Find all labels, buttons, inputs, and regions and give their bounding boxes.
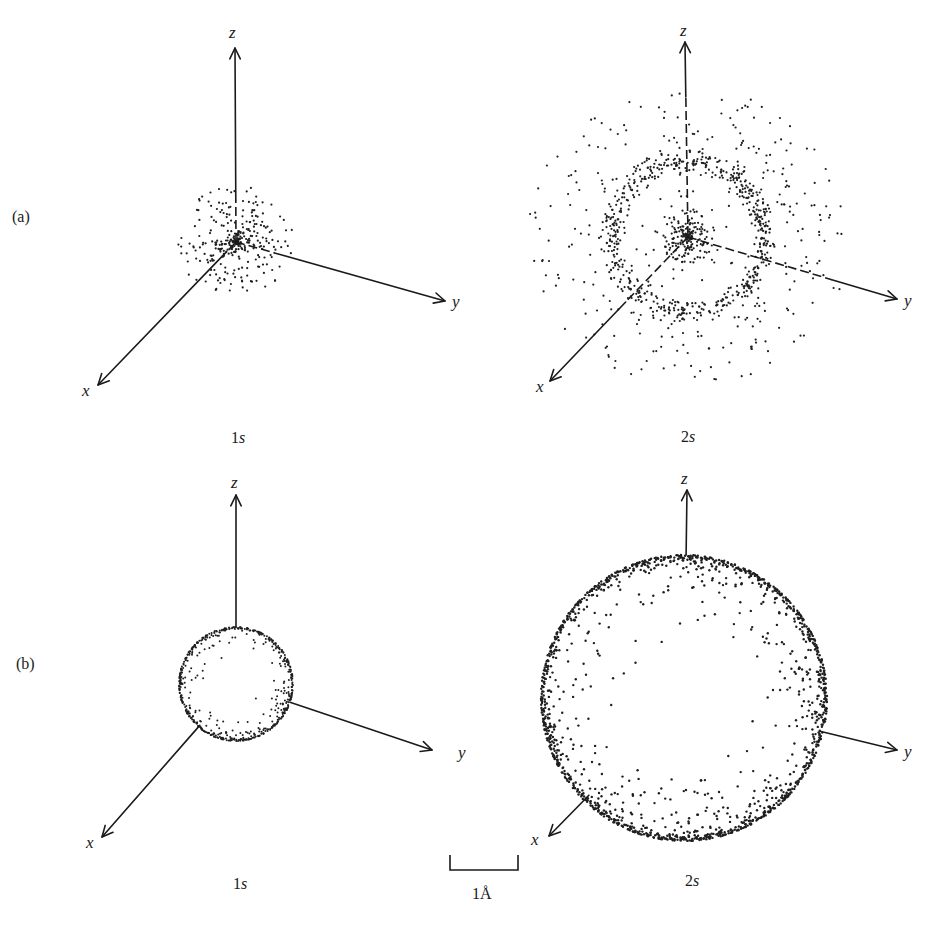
surface-dot — [804, 772, 806, 774]
surface-dot — [802, 679, 804, 681]
surface-dot — [710, 797, 712, 799]
density-dot — [198, 235, 200, 237]
surface-dot — [639, 833, 641, 835]
density-dot — [790, 142, 792, 144]
density-dot — [745, 197, 747, 199]
surface-dot — [713, 561, 715, 563]
surface-dot — [622, 569, 624, 571]
surface-dot — [578, 791, 580, 793]
z-axis-line — [685, 42, 686, 97]
density-dot — [616, 190, 618, 192]
density-dot — [813, 148, 815, 150]
density-dot — [681, 231, 683, 233]
density-dot — [242, 200, 244, 202]
y-axis-line — [290, 702, 432, 750]
density-dot — [614, 262, 616, 264]
density-dot — [623, 221, 625, 223]
density-dot — [219, 282, 221, 284]
surface-dot — [724, 596, 726, 598]
surface-dot — [585, 674, 587, 676]
surface-dot — [192, 715, 194, 717]
density-dot — [257, 254, 259, 256]
density-dot — [823, 240, 825, 242]
density-dot — [804, 192, 806, 194]
density-dot — [712, 172, 714, 174]
surface-dot — [239, 626, 241, 628]
density-dot — [732, 168, 734, 170]
surface-dot — [650, 829, 652, 831]
density-dot — [716, 166, 718, 168]
density-dot — [784, 262, 786, 264]
surface-dot — [223, 628, 225, 630]
density-dot — [653, 249, 655, 251]
surface-dot — [809, 678, 811, 680]
density-dot — [619, 281, 621, 283]
density-dot — [838, 288, 840, 290]
density-dot — [615, 234, 617, 236]
surface-dot — [287, 707, 289, 709]
surface-dot — [703, 837, 705, 839]
surface-dot — [642, 825, 644, 827]
density-dot — [760, 229, 762, 231]
surface-dot — [640, 817, 642, 819]
density-dot — [604, 213, 606, 215]
density-dot — [666, 223, 668, 225]
density-dot — [623, 196, 625, 198]
density-dot — [205, 280, 207, 282]
surface-dot — [246, 629, 248, 631]
surface-dot — [685, 566, 687, 568]
surface-dot — [541, 690, 543, 692]
density-dot — [712, 319, 714, 321]
density-dot — [736, 291, 738, 293]
surface-dot — [734, 564, 736, 566]
density-dot — [677, 227, 679, 229]
density-dot — [735, 126, 737, 128]
density-dot — [753, 282, 755, 284]
surface-dot — [720, 831, 722, 833]
surface-dot — [654, 834, 656, 836]
density-dot — [773, 246, 775, 248]
surface-dot — [755, 574, 757, 576]
density-dot — [253, 230, 255, 232]
surface-dot — [767, 582, 769, 584]
surface-dot — [594, 788, 596, 790]
density-dot — [816, 262, 818, 264]
surface-dot — [712, 577, 714, 579]
density-dot — [652, 315, 654, 317]
density-dot — [613, 242, 615, 244]
density-dot — [255, 223, 257, 225]
surface-dot — [807, 700, 809, 702]
surface-dot — [561, 624, 563, 626]
density-dot — [235, 250, 237, 252]
density-dot — [692, 305, 694, 307]
surface-dot — [241, 628, 243, 630]
surface-dot — [635, 563, 637, 565]
surface-dot — [586, 592, 588, 594]
surface-dot — [726, 812, 728, 814]
surface-dot — [187, 654, 189, 656]
density-dot — [822, 274, 824, 276]
surface-dot — [191, 651, 193, 653]
surface-dot — [250, 738, 252, 740]
surface-dot — [273, 680, 275, 682]
surface-dot — [614, 572, 616, 574]
surface-dot — [283, 687, 285, 689]
density-dot — [759, 279, 761, 281]
surface-dot — [598, 763, 600, 765]
surface-dot — [556, 743, 558, 745]
surface-dot — [186, 657, 188, 659]
density-dot — [628, 204, 630, 206]
surface-dot — [724, 831, 726, 833]
surface-dot — [634, 831, 636, 833]
density-dot — [237, 233, 239, 235]
surface-dot — [752, 770, 754, 772]
surface-dot — [282, 712, 284, 714]
surface-dot — [823, 670, 825, 672]
density-dot — [226, 189, 228, 191]
surface-dot — [791, 753, 793, 755]
surface-dot — [549, 725, 551, 727]
surface-dot — [271, 697, 273, 699]
surface-dot — [806, 762, 808, 764]
surface-dot — [733, 569, 735, 571]
density-dot — [692, 261, 694, 263]
